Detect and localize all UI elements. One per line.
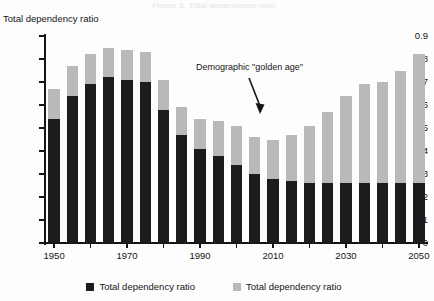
bar-2000: [231, 126, 242, 243]
legend-item-1[interactable]: Total dependency ratio: [233, 281, 342, 292]
bar-segment-upper: [121, 50, 132, 80]
bar-segment-lower: [377, 183, 388, 243]
bar-segment-lower: [359, 183, 370, 243]
bar-segment-upper: [103, 48, 114, 78]
x-tick: [199, 243, 201, 248]
legend-label: Total dependency ratio: [99, 281, 195, 292]
x-tick: [53, 243, 55, 248]
gray-square-icon: [233, 283, 241, 291]
bar-segment-upper: [377, 82, 388, 183]
bar-segment-lower: [249, 174, 260, 243]
bar-1965: [103, 48, 114, 244]
bar-segment-upper: [249, 137, 260, 174]
bar-segment-upper: [395, 71, 406, 184]
bar-segment-upper: [267, 140, 278, 179]
bar-2050: [413, 54, 424, 243]
bar-2040: [377, 82, 388, 243]
down-arrow-icon: [246, 76, 268, 116]
bar-segment-lower: [304, 183, 315, 243]
bar-segment-upper: [322, 112, 333, 183]
bar-segment-lower: [267, 179, 278, 243]
bar-segment-lower: [194, 149, 205, 243]
bar-2035: [359, 84, 370, 243]
bar-1995: [213, 121, 224, 243]
bar-segment-upper: [231, 126, 242, 165]
bar-1950: [48, 89, 59, 243]
black-square-icon: [86, 283, 94, 291]
bar-segment-lower: [103, 77, 114, 243]
bar-1990: [194, 119, 205, 243]
bar-segment-upper: [340, 96, 351, 183]
x-tick: [90, 243, 92, 248]
bar-segment-lower: [395, 183, 406, 243]
chart-legend: Total dependency ratioTotal dependency r…: [0, 281, 428, 292]
golden-age-annotation: Demographic "golden age": [196, 62, 303, 73]
bar-2005: [249, 137, 260, 243]
x-tick: [309, 243, 311, 248]
bar-segment-upper: [194, 119, 205, 149]
x-tick: [236, 243, 238, 248]
bar-2025: [322, 112, 333, 243]
bar-1985: [176, 107, 187, 243]
bar-segment-lower: [231, 165, 242, 243]
x-tick-label: 2010: [250, 250, 296, 261]
x-tick: [272, 243, 274, 248]
x-tick: [163, 243, 165, 248]
bar-2020: [304, 126, 315, 243]
x-tick: [382, 243, 384, 248]
bar-1955: [67, 66, 78, 243]
bar-segment-lower: [158, 110, 169, 243]
bar-segment-lower: [140, 82, 151, 243]
x-tick-label: 1990: [177, 250, 223, 261]
bar-segment-lower: [85, 84, 96, 243]
bar-2015: [286, 135, 297, 243]
bar-2045: [395, 71, 406, 244]
bar-segment-lower: [322, 183, 333, 243]
bar-segment-lower: [413, 183, 424, 243]
x-tick: [126, 243, 128, 248]
bar-segment-upper: [48, 89, 59, 119]
bar-1975: [140, 52, 151, 243]
bar-segment-lower: [340, 183, 351, 243]
bar-segment-lower: [48, 119, 59, 243]
x-tick: [345, 243, 347, 248]
bar-segment-upper: [413, 54, 424, 183]
x-tick-label: 2050: [396, 250, 434, 261]
bar-segment-upper: [286, 135, 297, 181]
bar-segment-upper: [176, 107, 187, 135]
x-tick-label: 2030: [323, 250, 369, 261]
bar-segment-upper: [140, 52, 151, 82]
legend-label: Total dependency ratio: [246, 281, 342, 292]
x-tick-label: 1950: [31, 250, 77, 261]
bar-segment-upper: [85, 54, 96, 84]
bar-segment-upper: [67, 66, 78, 96]
x-tick-label: 1970: [104, 250, 150, 261]
bar-1970: [121, 50, 132, 243]
bar-segment-upper: [359, 84, 370, 183]
cut-off-figure-title: Figure 3. Total dependency ratio: [0, 0, 428, 9]
y-axis-title: Total dependency ratio: [3, 13, 99, 24]
bar-segment-lower: [176, 135, 187, 243]
bar-1980: [158, 80, 169, 243]
legend-item-0[interactable]: Total dependency ratio: [86, 281, 195, 292]
x-tick: [418, 243, 420, 248]
bar-segment-lower: [213, 156, 224, 243]
bar-segment-lower: [286, 181, 297, 243]
bar-2010: [267, 140, 278, 244]
bar-segment-lower: [121, 80, 132, 243]
bar-2030: [340, 96, 351, 243]
bar-segment-upper: [213, 121, 224, 156]
bar-segment-lower: [67, 96, 78, 243]
bar-segment-upper: [304, 126, 315, 184]
bar-1960: [85, 54, 96, 243]
bar-segment-upper: [158, 80, 169, 110]
